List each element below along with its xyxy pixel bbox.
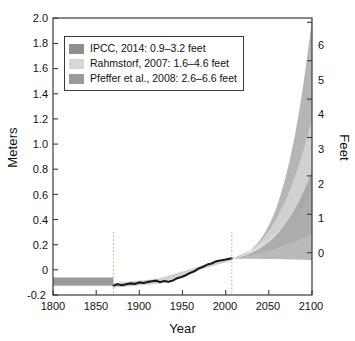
legend-swatch-icon xyxy=(69,74,84,84)
legend-item-ipcc-2014: IPCC, 2014: 0.9–3.2 feet xyxy=(69,41,237,56)
observed-sea-level-line xyxy=(113,258,231,285)
historic-range-band xyxy=(53,278,113,286)
chart-legend: IPCC, 2014: 0.9–3.2 feet Rahmstorf, 2007… xyxy=(64,36,244,91)
legend-label: Pfeffer et al., 2008: 2.6–6.6 feet xyxy=(90,73,237,84)
x-axis-ticks xyxy=(53,290,312,295)
legend-label: Rahmstorf, 2007: 1.6–4.6 feet xyxy=(90,58,229,69)
y-axis-ticks-left xyxy=(53,18,58,295)
legend-swatch-icon xyxy=(69,44,84,54)
legend-item-rahmstorf-2007: Rahmstorf, 2007: 1.6–4.6 feet xyxy=(69,56,237,71)
legend-swatch-icon xyxy=(69,59,84,69)
legend-label: IPCC, 2014: 0.9–3.2 feet xyxy=(90,43,206,54)
legend-item-pfeffer-2008: Pfeffer et al., 2008: 2.6–6.6 feet xyxy=(69,71,237,86)
sea-level-rise-chart: Meters Feet Year 2.0 1.8 1.6 1.4 1.2 1.0… xyxy=(0,0,355,341)
